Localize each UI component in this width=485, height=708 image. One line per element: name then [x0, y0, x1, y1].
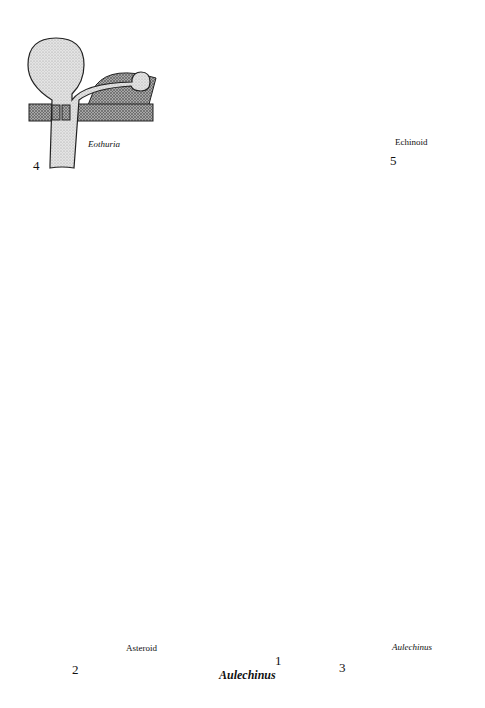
inset-4-name: Eothuria — [88, 139, 120, 149]
figure-canvas — [0, 0, 485, 708]
inset-2-number: 2 — [72, 662, 79, 678]
inset-3-number: 3 — [339, 660, 346, 676]
inset-2-name: Asteroid — [126, 643, 157, 653]
main-figure-number: 1 — [275, 653, 282, 669]
inset-3-name: Aulechinus — [392, 642, 432, 652]
inset-5-name: Echinoid — [395, 137, 428, 147]
main-figure-name: Aulechinus — [219, 668, 276, 683]
inset-5-number: 5 — [390, 153, 397, 169]
inset-4-number: 4 — [33, 158, 40, 174]
